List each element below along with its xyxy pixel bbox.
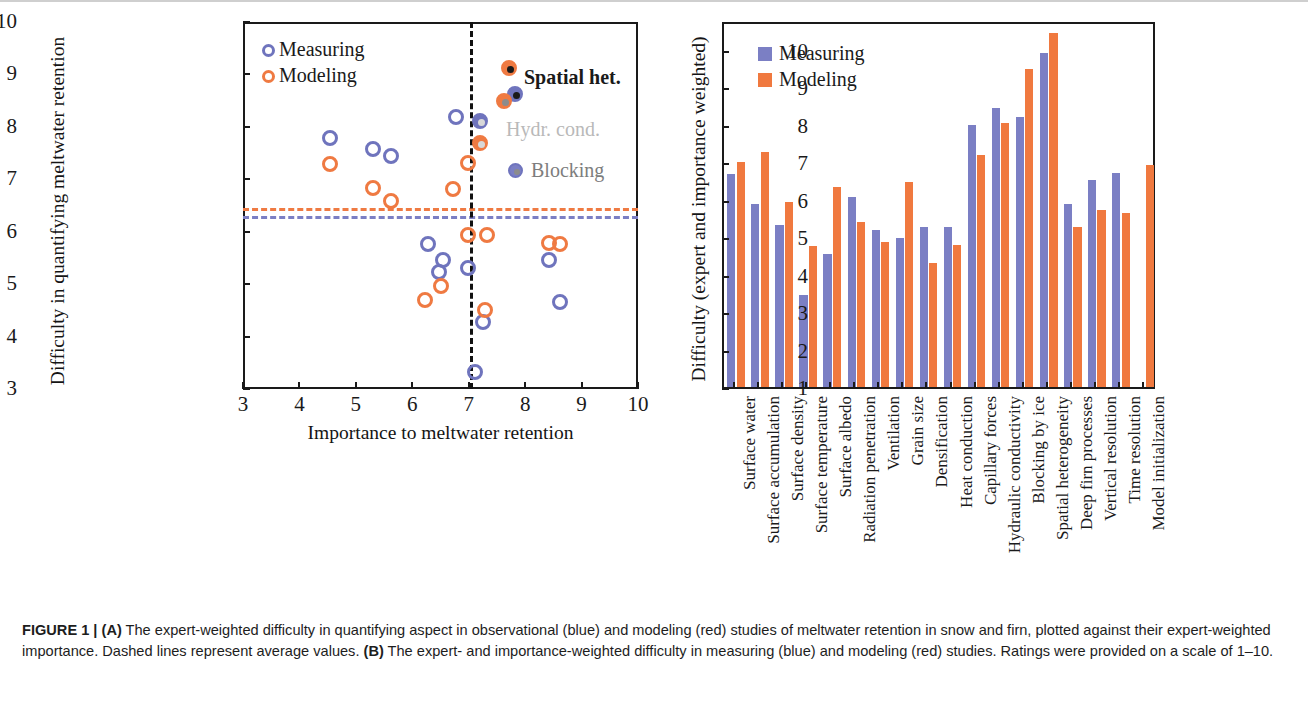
scatter-y-tick-label: 5 — [0, 271, 17, 296]
scatter-x-tick-label: 5 — [336, 392, 376, 417]
bar-measuring — [1064, 204, 1072, 387]
scatter-y-tick-mark — [243, 388, 250, 390]
bar-modeling — [1146, 165, 1154, 387]
bar-x-tick-mark — [998, 382, 1000, 389]
scatter-point-hydr-cond-measuring — [472, 113, 488, 129]
bar-modeling — [953, 245, 961, 387]
bar-modeling — [737, 162, 745, 387]
figure-area: Difficulty in quantifying meltwater rete… — [0, 0, 1308, 607]
bar-category-label: Radiation penetration — [860, 396, 880, 543]
scatter-y-tick-mark — [243, 283, 250, 285]
bar-category-label: Grain size — [908, 396, 928, 465]
bar-measuring — [751, 204, 759, 387]
bar-modeling — [1097, 210, 1105, 388]
square-blue-icon — [758, 47, 772, 61]
bar-x-tick-mark — [925, 382, 927, 389]
bar-measuring — [1112, 173, 1120, 387]
bar-category-label: Model initialization — [1149, 396, 1169, 531]
bar-category-label: Surface temperature — [812, 396, 832, 533]
scatter-point-measuring — [365, 141, 381, 157]
reference-line-importance-average — [470, 22, 473, 389]
bar-category-label: Deep firn processes — [1077, 396, 1097, 530]
bar-modeling — [809, 246, 817, 387]
caption-a-tag: (A) — [102, 622, 122, 638]
scatter-x-tick-mark — [637, 382, 639, 389]
bar-x-tick-mark — [950, 382, 952, 389]
bar-measuring — [823, 254, 831, 387]
annotation-spatial-het: Spatial het. — [524, 66, 621, 89]
bar-modeling — [1122, 213, 1130, 388]
bar-measuring — [1016, 117, 1024, 387]
bar-category-label: Ventilation — [884, 396, 904, 471]
bar-y-tick-mark — [722, 276, 729, 278]
scatter-x-tick-mark — [242, 382, 244, 389]
bar-x-tick-mark — [1118, 382, 1120, 389]
scatter-y-tick-mark — [243, 178, 250, 180]
bar-x-tick-mark — [1094, 382, 1096, 389]
scatter-point-modeling — [477, 302, 493, 318]
scatter-y-tick-label: 10 — [0, 9, 17, 34]
bar-category-label: Heat conduction — [957, 396, 977, 508]
bar-y-tick-mark — [722, 88, 729, 90]
bar-legend-measuring-label: Measuring — [779, 42, 865, 64]
bar-modeling — [1025, 69, 1033, 387]
scatter-legend-measuring: Measuring — [262, 38, 365, 61]
bar-measuring — [944, 227, 952, 387]
bar-modeling — [857, 222, 865, 387]
bar-category-label: Surface density — [788, 396, 808, 501]
scatter-x-tick-label: 9 — [562, 392, 602, 417]
scatter-legend-measuring-label: Measuring — [279, 38, 365, 60]
bar-modeling — [833, 187, 841, 387]
scatter-x-tick-label: 3 — [223, 392, 263, 417]
bar-legend-modeling-label: Modeling — [779, 68, 857, 90]
bar-x-tick-mark — [757, 382, 759, 389]
bar-x-tick-mark — [1070, 382, 1072, 389]
bar-y-tick-mark — [722, 201, 729, 203]
bar-category-label: Vertical resolution — [1101, 396, 1121, 521]
scatter-point-modeling — [445, 181, 461, 197]
bar-measuring — [1088, 180, 1096, 387]
scatter-x-tick-label: 10 — [618, 392, 658, 417]
bar-measuring — [872, 230, 880, 387]
scatter-point-modeling — [365, 180, 381, 196]
bar-y-tick-label: 5 — [768, 226, 808, 251]
scatter-point-modeling — [417, 292, 433, 308]
reference-line-modeling-average — [243, 208, 638, 211]
bar-category-label: Surface albedo — [836, 396, 856, 497]
bar-category-label: Surface accumulation — [764, 396, 784, 544]
scatter-x-tick-label: 4 — [279, 392, 319, 417]
scatter-y-tick-label: 9 — [0, 61, 17, 86]
scatter-x-tick-mark — [524, 382, 526, 389]
bar-modeling — [977, 155, 985, 387]
scatter-x-tick-mark — [355, 382, 357, 389]
scatter-y-tick-label: 7 — [0, 166, 17, 191]
highlight-core — [502, 99, 509, 106]
scatter-point-modeling — [460, 227, 476, 243]
bar-y-tick-label: 4 — [768, 264, 808, 289]
bar-y-tick-label: 2 — [768, 339, 808, 364]
open-circle-blue-icon — [262, 44, 275, 57]
scatter-point-blocking-modeling — [496, 93, 512, 109]
bar-measuring — [727, 174, 735, 387]
bar-modeling — [929, 263, 937, 387]
bar-y-tick-mark — [722, 51, 729, 53]
scatter-x-tick-mark — [581, 382, 583, 389]
bar-modeling — [881, 242, 889, 387]
bar-modeling — [905, 182, 913, 387]
scatter-x-tick-label: 7 — [449, 392, 489, 417]
panel-a-y-axis-title: Difficulty in quantifying meltwater rete… — [47, 25, 69, 397]
scatter-point-measuring — [552, 294, 568, 310]
scatter-point-hydr-cond-modeling — [472, 135, 488, 151]
scatter-y-tick-label: 6 — [0, 219, 17, 244]
bar-y-tick-mark — [722, 126, 729, 128]
bar-legend-modeling: Modeling — [758, 68, 857, 91]
bar-x-tick-mark — [1046, 382, 1048, 389]
bar-x-tick-mark — [877, 382, 879, 389]
bar-x-tick-mark — [1022, 382, 1024, 389]
scatter-y-tick-mark — [243, 73, 250, 75]
bar-measuring — [968, 125, 976, 387]
bar-x-tick-mark — [805, 382, 807, 389]
panel-a-scatter: Difficulty in quantifying meltwater rete… — [0, 0, 660, 607]
bar-y-tick-label: 3 — [768, 301, 808, 326]
scatter-legend-modeling-label: Modeling — [279, 64, 357, 86]
